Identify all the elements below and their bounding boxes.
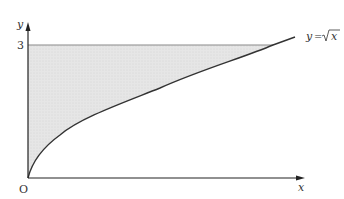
curve-label: y = x <box>305 30 340 43</box>
shaded-region <box>28 45 273 178</box>
y-tick-label-3: 3 <box>17 39 24 52</box>
svg-text:=: = <box>314 31 322 42</box>
svg-text:x: x <box>331 30 338 43</box>
origin-label: O <box>19 183 28 196</box>
svg-text:y: y <box>305 30 313 43</box>
x-axis-label: x <box>298 181 305 194</box>
y-axis-arrow-icon <box>26 22 31 31</box>
y-axis-label: y <box>16 18 24 31</box>
x-axis-arrow-icon <box>296 176 305 181</box>
diagram-canvas: y 3 O x y = x <box>0 0 344 199</box>
